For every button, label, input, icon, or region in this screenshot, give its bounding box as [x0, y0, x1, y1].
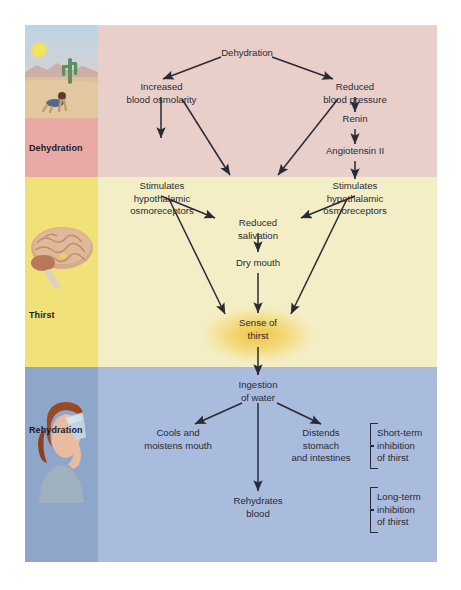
node-reduced-salivation: Reducedsalivation: [220, 217, 296, 242]
node-cools-mouth: Cools andmoistens mouth: [128, 427, 228, 452]
node-dehydration: Dehydration: [208, 47, 286, 60]
node-dry-mouth: Dry mouth: [218, 257, 298, 270]
node-increased-osmolarity: Increasedblood osmolarity: [110, 81, 213, 106]
node-angiotensin: Angiotensin II: [309, 145, 401, 158]
node-ingestion: Ingestionof water: [220, 379, 296, 404]
node-distends-stomach: Distendsstomachand intestines: [275, 427, 367, 465]
node-reduced-pressure: Reducedblood pressure: [306, 81, 404, 106]
node-osmoreceptors-left: Stimulateshypothalamicosmoreceptors: [115, 180, 209, 218]
node-sense-of-thirst: Sense ofthirst: [220, 317, 296, 342]
node-rehydrates-blood: Rehydratesblood: [217, 495, 299, 520]
node-renin: Renin: [324, 113, 386, 126]
pathway-diagram: Dehydration Thirst: [25, 25, 437, 562]
label-long-term: Long-terminhibitionof thirst: [377, 491, 437, 529]
label-short-term: Short-terminhibitionof thirst: [377, 427, 437, 465]
node-osmoreceptors-right: Stimulateshypothalamicosmoreceptors: [308, 180, 402, 218]
